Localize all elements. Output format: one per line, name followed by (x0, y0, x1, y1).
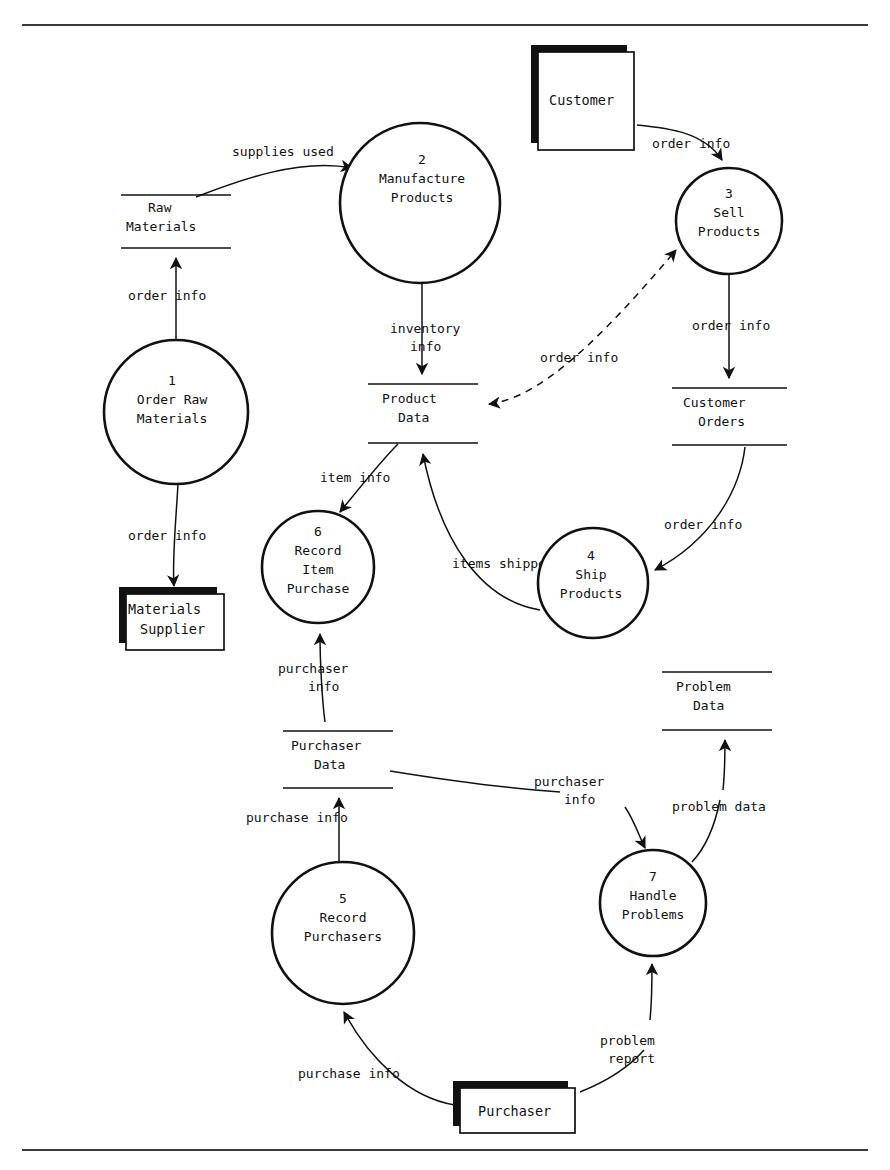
flow-purchase-info-store: purchase info (246, 798, 348, 862)
flow-items-shipped: items shipped (423, 454, 554, 610)
flow-arrow-bidirectional (489, 250, 676, 404)
flow-order-info-raw-materials: order info (128, 258, 206, 340)
process-name-line1: Sell (713, 205, 744, 220)
store-label-line1: Customer (683, 395, 746, 410)
store-label-line1: Problem (676, 679, 731, 694)
flow-label-purchase-info-ext: purchase info (298, 1066, 400, 1081)
process-5-record-purchasers[interactable]: 5 Record Purchasers (272, 862, 414, 1004)
process-name-line2: Materials (137, 411, 207, 426)
flow-arrow (423, 454, 540, 610)
process-3-sell-products[interactable]: 3 Sell Products (676, 168, 782, 274)
store-label-line1: Purchaser (291, 738, 362, 753)
data-store-customer-orders[interactable]: Customer Orders (672, 388, 787, 445)
process-number: 6 (314, 524, 322, 539)
process-7-handle-problems[interactable]: 7 Handle Problems (600, 850, 706, 956)
store-label-line2: Data (398, 410, 429, 425)
flow-purchaser-info-handle-problems: purchaser info (390, 771, 645, 848)
flow-inventory-info: inventory info (390, 283, 461, 374)
process-name-line1: Handle (630, 888, 677, 903)
flow-arrow (320, 634, 325, 722)
flow-item-info: item info (320, 444, 398, 512)
process-name-line2: Products (698, 224, 761, 239)
flow-problem-data: problem data (672, 740, 766, 862)
process-name-line1: Record (320, 910, 367, 925)
flow-order-info-customer: order info (637, 125, 730, 160)
process-circle (600, 850, 706, 956)
process-circle (538, 528, 648, 638)
flow-label-problem-report-2: report (608, 1051, 655, 1066)
flow-label-supplies-used: supplies used (232, 144, 334, 159)
flow-arrow (655, 447, 745, 570)
process-number: 7 (649, 869, 657, 884)
process-number: 4 (587, 548, 595, 563)
process-name-line1: Record (295, 543, 342, 558)
process-6-record-item-purchase[interactable]: 6 Record Item Purchase (262, 511, 374, 623)
process-number: 2 (418, 152, 426, 167)
flow-arrow (650, 964, 652, 1020)
process-number: 1 (168, 373, 176, 388)
flow-arrow (196, 165, 352, 197)
process-name-line1: Manufacture (379, 171, 465, 186)
process-name-line1: Ship (575, 567, 606, 582)
flow-problem-report: problem report (580, 964, 655, 1092)
diagram-page: supplies used order info order info orde… (0, 0, 890, 1170)
external-entity-materials-supplier[interactable]: Materials Supplier (119, 587, 224, 650)
flow-label-purchaser-info-1: purchaser (278, 661, 349, 676)
process-name-line2: Purchasers (304, 929, 382, 944)
external-entity-purchaser[interactable]: Purchaser (453, 1081, 575, 1133)
flow-label-order-info-ship: order info (664, 517, 742, 532)
process-name-line3: Purchase (287, 581, 350, 596)
process-1-order-raw-materials[interactable]: 1 Order Raw Materials (104, 340, 248, 484)
entity-label-line1: Materials (128, 601, 201, 617)
data-store-product-data[interactable]: Product Data (368, 384, 478, 443)
flow-arrow (625, 807, 645, 848)
flow-order-info-product-data: order info (489, 250, 676, 404)
process-circle (676, 168, 782, 274)
process-2-manufacture-products[interactable]: 2 Manufacture Products (340, 123, 500, 283)
process-name-line1: Order Raw (137, 392, 208, 407)
flow-label-item-info: item info (320, 470, 390, 485)
flow-label-purchaser-info-problem-2: info (564, 792, 595, 807)
flow-label-purchaser-info-2: info (308, 679, 339, 694)
flow-purchase-info-external: purchase info (298, 1012, 455, 1105)
flow-supplies-used: supplies used (196, 144, 352, 197)
flow-order-info-customer-orders: order info (692, 274, 770, 378)
flow-label-order-info-customer: order info (652, 136, 730, 151)
flow-label-purchaser-info-problem-1: purchaser (534, 774, 605, 789)
flow-label-problem-data: problem data (672, 799, 766, 814)
process-number: 3 (725, 186, 733, 201)
flow-label-order-info-product: order info (540, 350, 618, 365)
store-label-line1: Product (382, 391, 437, 406)
data-store-purchaser-data[interactable]: Purchaser Data (283, 731, 393, 788)
flow-label-order-info-supplier: order info (128, 528, 206, 543)
store-label-line2: Orders (698, 414, 745, 429)
flow-purchaser-info-record-item: purchaser info (278, 634, 349, 722)
store-label-line1: Raw (148, 200, 172, 215)
flow-label-inventory-info-2: info (410, 339, 441, 354)
entity-label-line2: Supplier (140, 621, 205, 637)
entity-label: Purchaser (478, 1103, 551, 1119)
flow-label-items-shipped: items shipped (452, 556, 554, 571)
data-store-raw-materials[interactable]: Raw Materials (121, 195, 231, 248)
flow-label-inventory-info-1: inventory (390, 321, 461, 336)
flow-label-order-info-orders: order info (692, 318, 770, 333)
store-label-line2: Data (314, 757, 345, 772)
process-name-line2: Item (302, 562, 333, 577)
store-label-line2: Data (693, 698, 724, 713)
external-entity-customer[interactable]: Customer (531, 45, 634, 150)
flow-order-info-ship-products: order info (655, 447, 745, 570)
process-name-line2: Products (391, 190, 454, 205)
flow-label-order-info-raw: order info (128, 288, 206, 303)
entity-label: Customer (549, 92, 614, 108)
data-store-problem-data[interactable]: Problem Data (662, 672, 772, 730)
flow-arrow (344, 1012, 455, 1105)
store-label-line2: Materials (126, 219, 196, 234)
flow-label-purchase-info-store: purchase info (246, 810, 348, 825)
data-flow-diagram-canvas: supplies used order info order info orde… (0, 0, 890, 1170)
process-4-ship-products[interactable]: 4 Ship Products (538, 528, 648, 638)
flow-arrow (723, 740, 725, 790)
process-name-line2: Products (560, 586, 623, 601)
flow-label-problem-report-1: problem (600, 1033, 655, 1048)
process-number: 5 (339, 891, 347, 906)
process-name-line2: Problems (622, 907, 685, 922)
